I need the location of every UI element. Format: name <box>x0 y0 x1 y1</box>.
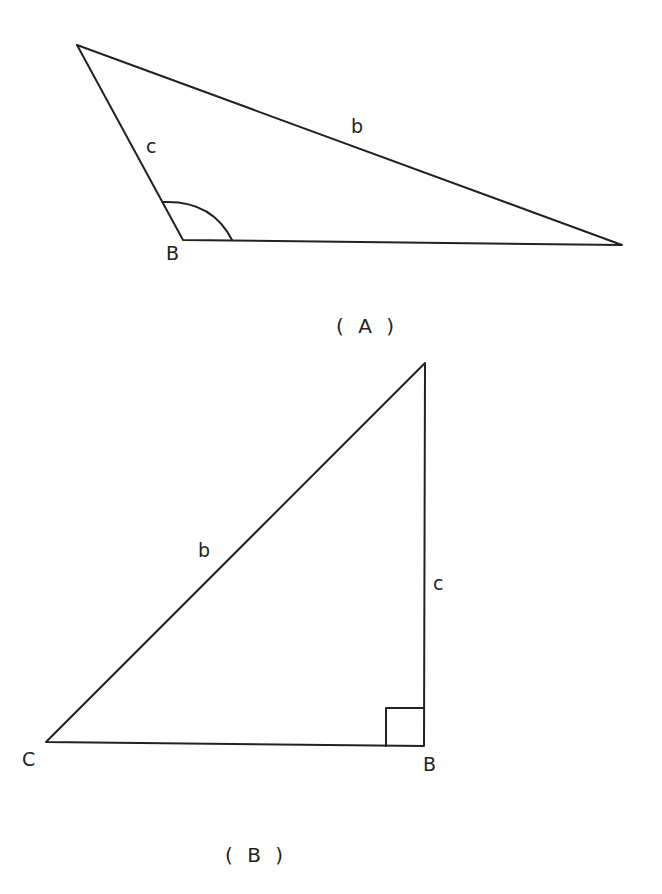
triangle-a-vertex-b-label: B <box>166 242 179 264</box>
triangle-b-side-b-label: b <box>198 539 210 561</box>
triangle-b-side-c-label: c <box>433 572 443 594</box>
figure-b-caption: ( B ) <box>225 843 287 867</box>
triangle-b-vertex-c-label: C <box>22 748 35 770</box>
triangle-diagram: c b B ( A ) b c C B ( B ) <box>0 0 662 894</box>
triangle-b: b c C B ( B ) <box>22 363 443 867</box>
triangle-a-side-c-label: c <box>146 135 156 157</box>
triangle-b-edges <box>46 363 425 746</box>
figure-a-caption: ( A ) <box>336 314 398 338</box>
triangle-a: c b B ( A ) <box>77 45 622 338</box>
triangle-a-edges <box>77 45 622 245</box>
triangle-b-vertex-b-label: B <box>423 753 436 775</box>
triangle-a-side-b-label: b <box>351 115 363 137</box>
triangle-b-right-angle-mark <box>386 708 424 746</box>
